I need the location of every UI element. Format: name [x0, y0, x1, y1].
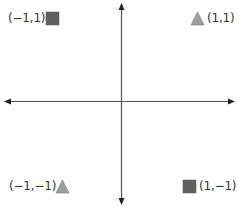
arrow-up-icon	[119, 3, 125, 10]
arrow-left-icon	[4, 99, 11, 105]
triangle-marker-bottom-left	[56, 180, 69, 193]
square-marker-top-left	[46, 12, 59, 25]
point-label-top-left: (−1,1)	[8, 11, 45, 25]
arrow-right-icon	[228, 99, 235, 105]
triangle-marker-top-right	[191, 12, 204, 25]
square-marker-bottom-right	[183, 180, 196, 193]
coordinate-diagram: (−1,1) (1,1) (−1,−1) (1,−1)	[0, 0, 238, 207]
axes-canvas	[0, 0, 238, 207]
point-label-top-right: (1,1)	[207, 11, 234, 25]
point-label-bottom-left: (−1,−1)	[9, 179, 56, 193]
horizontal-axis	[4, 99, 235, 105]
vertical-axis	[119, 3, 125, 205]
point-label-bottom-right: (1,−1)	[199, 179, 236, 193]
arrow-down-icon	[119, 198, 125, 205]
